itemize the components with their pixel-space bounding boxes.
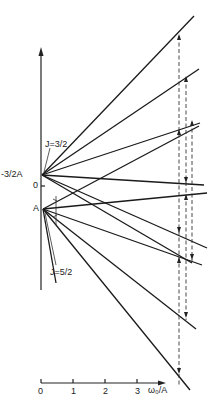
diagram-canvas <box>0 0 220 396</box>
upper-level-label: -3/2A <box>1 170 23 179</box>
y-axis <box>39 47 46 290</box>
j32-label: J=3/2 <box>45 140 67 149</box>
x-tick-1: 1 <box>71 387 76 396</box>
lower-level-label: A <box>33 204 39 213</box>
j52-leader <box>45 213 56 265</box>
j52-levels <box>43 126 207 390</box>
j52-label: J=5/2 <box>50 268 72 277</box>
transition-arrows <box>177 34 194 385</box>
x-tick-2: 2 <box>103 387 108 396</box>
diagram-figure: J=3/2 -3/2A 0 A J=5/2 0 1 2 3 ω₀/A <box>0 0 220 396</box>
origin-connectors <box>53 196 57 225</box>
x-tick-0: 0 <box>38 387 43 396</box>
x-axis-label: ω₀/A <box>148 386 167 395</box>
zero-level-label: 0 <box>33 181 38 190</box>
x-tick-3: 3 <box>135 387 140 396</box>
